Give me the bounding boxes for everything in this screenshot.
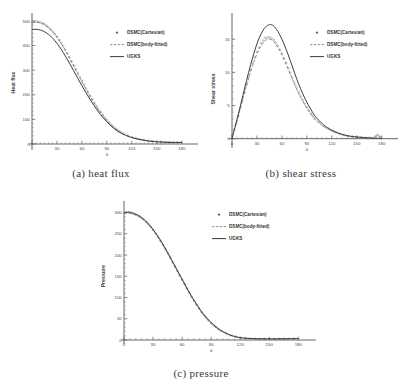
x-axis: 0306090120150180θ [29,141,198,157]
legend-label: DSMC(body-fitted) [127,42,168,47]
x-tick-label: 60 [279,141,284,146]
y-axis: 050100150200250300Pressure [100,201,127,344]
x-tick-label: 30 [255,141,260,146]
legend-label: DSMC(Cartesian) [229,212,267,217]
y-axis-label: Pressure [100,265,106,287]
figure-container: 0306090120150180θ0100200300400500Heat fl… [0,0,401,388]
subplot-pressure: 0306090120150180θ050100150200250300Press… [82,192,320,384]
subplot-heat-flux: 0306090120150180θ0100200300400500Heat fl… [2,4,200,182]
y-tick-label: 100 [114,295,122,300]
legend-label: DSMC(body-fitted) [327,42,368,47]
y-tick-label: 500 [22,19,30,24]
legend-label: UGKS [127,54,140,59]
legend: DSMC(Cartesian)DSMC(body-fitted)UGKS [212,212,270,241]
legend-label: UGKS [229,236,242,241]
x-tick-label: 120 [328,141,336,146]
legend-label: DSMC(Cartesian) [327,30,365,35]
x-tick-label: 150 [353,141,361,146]
y-tick-label: 100 [22,117,30,122]
caption-shear-stress: (b) shear stress [202,167,400,179]
x-tick-label: 180 [178,146,186,151]
y-tick-label: 300 [22,68,30,73]
data-series-group [123,212,299,340]
x-tick-label: 90 [104,146,109,151]
x-tick-label: 120 [237,342,245,347]
y-axis: 0100200300400500Heat flux [10,13,35,148]
x-tick-label: 60 [180,342,185,347]
y-tick-label: 200 [114,253,122,258]
chart-svg-a: 0306090120150180θ0100200300400500Heat fl… [2,4,200,166]
legend-label: DSMC(Cartesian) [127,30,165,35]
series-line-ugks [124,212,298,339]
x-axis-label: θ [306,147,309,152]
y-tick-label: 400 [22,43,30,48]
subplot-shear-stress: 0306090120150180θ051015Shear stressDSMC(… [202,4,400,182]
y-tick-label: 200 [22,92,30,97]
y-tick-label: 300 [114,210,122,215]
legend: DSMC(Cartesian)DSMC(body-fitted)UGKS [110,30,168,59]
y-axis-label: Heat flux [10,71,16,93]
x-tick-label: 30 [55,146,60,151]
series-line-dsmc-body-fitted [232,39,382,138]
y-tick-label: 50 [117,316,122,321]
x-axis-label: θ [106,152,109,157]
plot-area-shear-stress: 0306090120150180θ051015Shear stressDSMC(… [202,4,400,166]
series-line-dsmc-body-fitted [124,213,298,339]
x-tick-label: 120 [128,146,136,151]
series-points-dsmc-cartesian [123,212,299,340]
caption-heat-flux: (a) heat flux [2,167,200,179]
y-tick-label: 10 [225,70,230,75]
x-tick-label: 90 [304,141,309,146]
plot-area-pressure: 0306090120150180θ050100150200250300Press… [82,192,320,364]
y-tick-label: 5 [227,103,230,108]
y-tick-label: 15 [225,37,230,42]
y-tick-label: 150 [114,274,122,279]
y-axis-label: Shear stress [210,73,216,104]
chart-svg-c: 0306090120150180θ050100150200250300Press… [82,192,320,364]
x-tick-label: 60 [79,146,84,151]
caption-pressure: (c) pressure [82,367,320,379]
x-tick-label: 150 [266,342,274,347]
x-tick-label: 30 [151,342,156,347]
chart-svg-b: 0306090120150180θ051015Shear stressDSMC(… [202,4,400,166]
y-tick-label: 250 [114,231,122,236]
legend-label: UGKS [327,54,340,59]
x-tick-label: 180 [378,141,386,146]
data-series-group [31,21,182,144]
legend: DSMC(Cartesian)DSMC(body-fitted)UGKS [310,30,368,59]
legend-label: DSMC(body-fitted) [229,224,270,229]
x-tick-label: 90 [209,342,214,347]
x-axis-label: θ [210,348,213,353]
x-axis: 0306090120150180θ [121,337,316,353]
plot-area-heat-flux: 0306090120150180θ0100200300400500Heat fl… [2,4,200,166]
x-tick-label: 180 [295,342,303,347]
y-axis: 051015Shear stress [210,13,235,148]
x-tick-label: 150 [153,146,161,151]
